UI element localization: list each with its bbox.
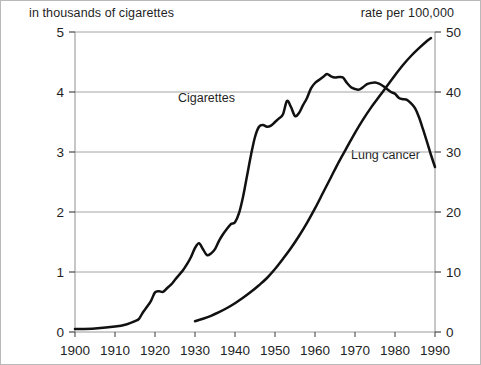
axis-tick-labels: 0123450102030405019001910192019301940195… — [56, 25, 461, 358]
chart-plot: 0123450102030405019001910192019301940195… — [1, 1, 481, 365]
chart-figure: in thousands of cigarettes rate per 100,… — [0, 0, 481, 365]
svg-text:20: 20 — [446, 205, 461, 220]
svg-text:2: 2 — [56, 205, 64, 220]
svg-text:1910: 1910 — [100, 343, 130, 358]
axis-ticks — [69, 32, 441, 337]
svg-text:1980: 1980 — [380, 343, 410, 358]
svg-text:1930: 1930 — [180, 343, 210, 358]
svg-text:1900: 1900 — [60, 343, 90, 358]
svg-text:1970: 1970 — [340, 343, 370, 358]
svg-text:30: 30 — [446, 145, 461, 160]
svg-text:1990: 1990 — [420, 343, 450, 358]
svg-text:1940: 1940 — [220, 343, 250, 358]
svg-text:5: 5 — [56, 25, 64, 40]
svg-text:3: 3 — [56, 145, 64, 160]
svg-text:4: 4 — [56, 85, 64, 100]
svg-text:1960: 1960 — [300, 343, 330, 358]
svg-text:10: 10 — [446, 265, 461, 280]
svg-text:0: 0 — [56, 325, 64, 340]
svg-text:40: 40 — [446, 85, 461, 100]
series-paths — [75, 38, 435, 329]
svg-text:0: 0 — [446, 325, 454, 340]
svg-text:1: 1 — [56, 265, 64, 280]
series-line-cigarettes — [75, 74, 435, 329]
svg-text:1950: 1950 — [260, 343, 290, 358]
svg-text:1920: 1920 — [140, 343, 170, 358]
series-line-lung-cancer — [195, 38, 431, 321]
svg-text:50: 50 — [446, 25, 461, 40]
